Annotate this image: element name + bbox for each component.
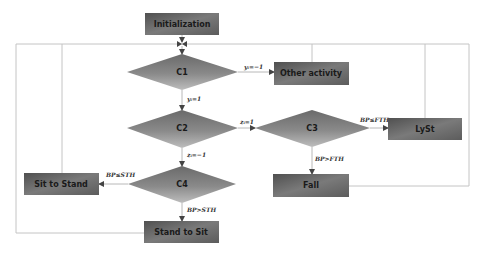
node-other-activity-label: Other activity — [280, 69, 343, 78]
loop-fall — [349, 44, 469, 186]
node-c3: C3 — [255, 110, 370, 147]
node-c1-label: C1 — [176, 68, 188, 77]
node-lyst-label: LySt — [415, 125, 435, 134]
node-sit-to-stand: Sit to Stand — [24, 173, 99, 195]
edge-label-c2-c3: zᵢ=1 — [239, 118, 254, 125]
edge-label-c3-fall: BP>FTH — [314, 155, 344, 162]
node-c2-label: C2 — [176, 124, 187, 133]
edge-label-c2-c4: zᵢ=−1 — [186, 151, 206, 158]
flowchart-canvas: yᵢ=−1 yᵢ=1 zᵢ=1 zᵢ=−1 BP≤FTH BP>FTH BP≤S… — [0, 0, 483, 258]
node-fall-label: Fall — [303, 181, 319, 190]
node-stand-to-sit-label: Stand to Sit — [154, 228, 208, 237]
node-c4: C4 — [128, 166, 236, 203]
node-other-activity: Other activity — [274, 62, 349, 85]
node-initialization: Initialization — [145, 13, 219, 35]
node-sit-to-stand-label: Sit to Stand — [34, 180, 88, 189]
edge-label-c3-lyst: BP≤FTH — [359, 116, 389, 123]
node-lyst: LySt — [388, 118, 462, 140]
node-c1: C1 — [127, 54, 238, 90]
loop-stand-to-sit — [16, 44, 144, 233]
node-initialization-label: Initialization — [154, 20, 211, 29]
node-stand-to-sit: Stand to Sit — [144, 221, 219, 243]
edge-label-c4-stand-to-sit: BP>STH — [186, 206, 216, 213]
node-c2: C2 — [127, 110, 238, 148]
node-fall: Fall — [273, 174, 349, 197]
edge-label-c1-other: yᵢ=−1 — [243, 63, 263, 71]
edge-label-c1-c2: yᵢ=1 — [186, 95, 201, 103]
edge-label-c4-sit-to-stand: BP≤STH — [105, 171, 135, 178]
node-c4-label: C4 — [176, 180, 188, 189]
node-c3-label: C3 — [306, 124, 317, 133]
